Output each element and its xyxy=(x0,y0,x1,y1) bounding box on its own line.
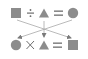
triangle-icon xyxy=(39,9,49,18)
triangle-icon xyxy=(39,41,49,50)
multiply-icon xyxy=(27,41,35,49)
square-icon xyxy=(68,40,78,50)
circle-icon xyxy=(68,8,78,18)
circle-icon xyxy=(11,40,21,50)
square-icon xyxy=(11,8,21,18)
top-row xyxy=(11,8,78,18)
equals-icon xyxy=(54,11,63,16)
diagram-canvas xyxy=(0,0,88,59)
bottom-row xyxy=(11,40,78,50)
equals-icon xyxy=(53,43,62,48)
divide-icon xyxy=(27,9,34,17)
arrows xyxy=(17,20,72,38)
